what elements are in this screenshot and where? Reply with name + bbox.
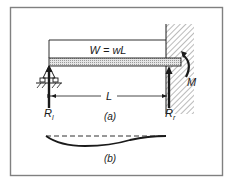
svg-text:R: R [165, 107, 173, 119]
beam-diagram: W = wL M L R l R [0, 0, 232, 180]
beam [49, 58, 181, 66]
svg-text:l: l [52, 114, 54, 121]
span-label: L [106, 90, 112, 102]
deflection-diagram [46, 136, 166, 146]
svg-text:R: R [44, 107, 52, 119]
left-reaction-arrow [46, 65, 53, 108]
moment-label: M [187, 76, 197, 88]
caption-b: (b) [104, 153, 116, 164]
svg-text:r: r [173, 114, 176, 121]
load-label: W = wL [90, 44, 127, 56]
deflection-curve [46, 136, 166, 146]
left-reaction-label: R l [44, 107, 54, 121]
caption-a: (a) [104, 111, 116, 122]
